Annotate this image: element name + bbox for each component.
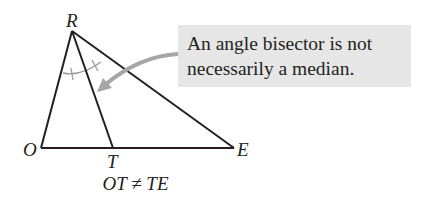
vertex-label-E: E <box>237 140 249 159</box>
vertex-label-T: T <box>107 152 118 171</box>
caption: OT ≠ TE <box>0 173 271 195</box>
vertex-label-R: R <box>66 11 78 30</box>
callout-box: An angle bisector is not necessarily a m… <box>178 25 411 87</box>
arrow-curve <box>106 54 178 84</box>
arc-tick-right <box>92 60 98 71</box>
callout-line-2: necessarily a median. <box>187 56 403 81</box>
angle-arc <box>63 62 101 74</box>
vertex-label-O: O <box>23 140 37 159</box>
callout-line-1: An angle bisector is not <box>187 31 403 56</box>
side-RO <box>41 31 72 148</box>
bisector-RT <box>72 31 113 148</box>
